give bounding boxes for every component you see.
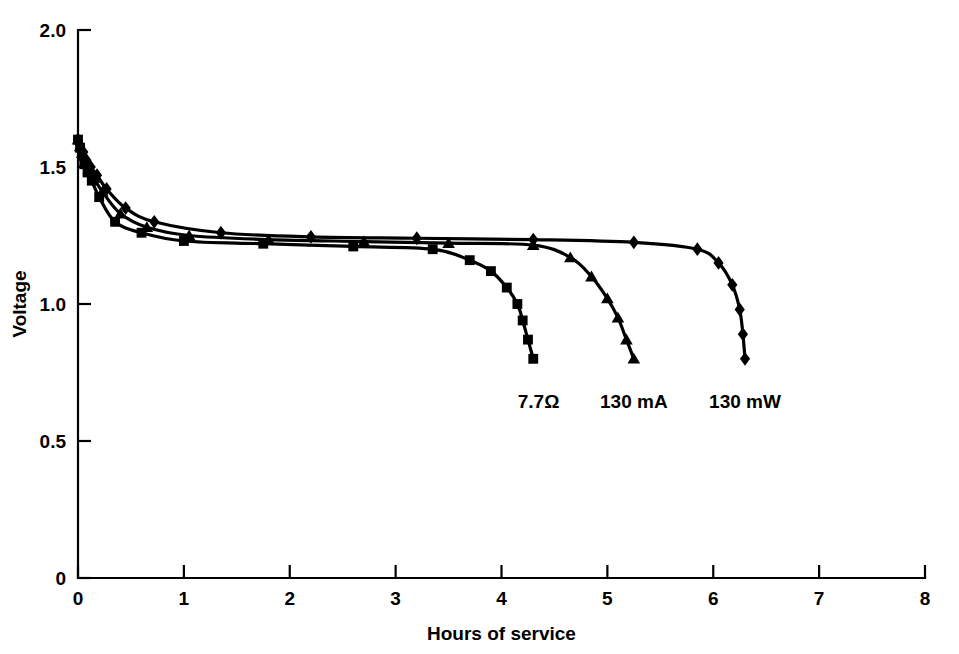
data-series (73, 135, 538, 364)
x-tick-label: 4 (496, 588, 507, 609)
diamond-marker (738, 327, 748, 341)
x-tick-label: 0 (73, 588, 84, 609)
x-axis-title: Hours of service (427, 623, 576, 644)
square-marker (348, 242, 358, 252)
diamond-marker (149, 215, 159, 229)
diamond-marker (740, 352, 750, 366)
x-tick-label: 6 (708, 588, 719, 609)
y-tick-label: 2.0 (40, 20, 66, 41)
x-tick-label: 8 (920, 588, 931, 609)
x-tick-label: 5 (602, 588, 613, 609)
y-tick-label: 0 (55, 568, 66, 589)
square-marker (502, 283, 512, 293)
series-label: 130 mW (709, 391, 781, 412)
x-tick-label: 1 (179, 588, 190, 609)
diamond-marker (735, 303, 745, 317)
square-marker (486, 266, 496, 276)
square-marker (428, 244, 438, 254)
square-marker (528, 354, 538, 364)
x-tick-label: 3 (390, 588, 401, 609)
series-label: 7.7Ω (518, 391, 560, 412)
axes: 00.51.01.52.0012345678 (40, 20, 931, 609)
data-series-group (72, 133, 750, 366)
y-tick-label: 1.0 (40, 294, 66, 315)
triangle-marker (628, 353, 641, 364)
chart-canvas: 00.51.01.52.0012345678 7.7Ω130 mA130 mW … (0, 0, 959, 654)
square-marker (523, 335, 533, 345)
diamond-marker (692, 242, 702, 256)
y-tick-label: 0.5 (40, 431, 67, 452)
discharge-curve-figure: 00.51.01.52.0012345678 7.7Ω130 mA130 mW … (0, 0, 959, 654)
y-tick-label: 1.5 (40, 157, 67, 178)
square-marker (512, 299, 522, 309)
x-tick-label: 2 (284, 588, 295, 609)
x-tick-label: 7 (814, 588, 825, 609)
triangle-marker (620, 334, 633, 345)
triangle-marker (612, 312, 625, 323)
square-marker (518, 316, 528, 326)
diamond-marker (629, 235, 639, 249)
y-axis-title: Voltage (9, 270, 30, 337)
square-marker (465, 255, 475, 265)
series-annotations: 7.7Ω130 mA130 mW (518, 391, 781, 412)
series-line (78, 140, 533, 359)
series-label: 130 mA (600, 391, 668, 412)
